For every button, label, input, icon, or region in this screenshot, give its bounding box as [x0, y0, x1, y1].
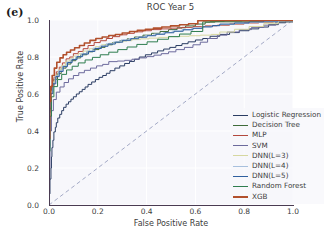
legend-item-label: SVM: [252, 141, 268, 151]
legend-swatch-icon: [233, 115, 248, 116]
legend-item[interactable]: Logistic Regression: [233, 110, 321, 120]
legend-item[interactable]: Decision Tree: [233, 120, 321, 130]
panel-label: (e): [6, 6, 23, 19]
legend-item-label: Random Forest: [252, 181, 306, 191]
x-axis-label: False Positive Rate: [49, 219, 293, 228]
x-tick-label: 0.8: [238, 207, 250, 216]
legend-item-label: XGB: [252, 192, 267, 202]
y-axis-label: True Positive Rate: [16, 27, 25, 147]
y-tick-label: 0.8: [27, 53, 39, 62]
roc-figure: (e) ROC Year 5 0.00.20.40.60.81.0 0.00.2…: [0, 0, 335, 234]
legend-swatch-icon: [233, 155, 248, 156]
legend-item-label: MLP: [252, 130, 267, 140]
x-tick-label: 1.0: [287, 207, 299, 216]
y-tick-label: 0.2: [27, 164, 39, 173]
legend-swatch-icon: [233, 145, 248, 146]
legend-item-label: DNN(L=5): [252, 171, 289, 181]
legend-item-label: Decision Tree: [252, 120, 300, 130]
legend-swatch-icon: [233, 186, 248, 187]
legend-item[interactable]: XGB: [233, 192, 321, 202]
legend-item[interactable]: SVM: [233, 141, 321, 151]
legend-item[interactable]: Random Forest: [233, 181, 321, 191]
chart-title: ROC Year 5: [48, 2, 293, 12]
y-tick-label: 0.6: [27, 90, 39, 99]
y-tick-label: 0.4: [27, 127, 39, 136]
legend-item[interactable]: DNN(L=5): [233, 171, 321, 181]
legend-swatch-icon: [233, 125, 248, 126]
legend-item[interactable]: MLP: [233, 130, 321, 140]
legend-item-label: DNN(L=3): [252, 151, 289, 161]
x-tick-label: 0.4: [141, 207, 153, 216]
legend-swatch-icon: [233, 166, 248, 167]
x-tick-label: 0.0: [43, 207, 55, 216]
legend: Logistic RegressionDecision TreeMLPSVMDN…: [231, 108, 324, 204]
y-tick-label: 1.0: [27, 16, 39, 25]
legend-swatch-icon: [233, 196, 248, 198]
x-tick-label: 0.2: [92, 207, 104, 216]
legend-item-label: Logistic Regression: [252, 110, 321, 120]
legend-item[interactable]: DNN(L=3): [233, 151, 321, 161]
y-tick-label: 0.0: [27, 201, 39, 210]
x-tick-label: 0.6: [189, 207, 201, 216]
legend-item[interactable]: DNN(L=4): [233, 161, 321, 171]
legend-swatch-icon: [233, 135, 248, 136]
legend-swatch-icon: [233, 176, 248, 177]
legend-item-label: DNN(L=4): [252, 161, 289, 171]
